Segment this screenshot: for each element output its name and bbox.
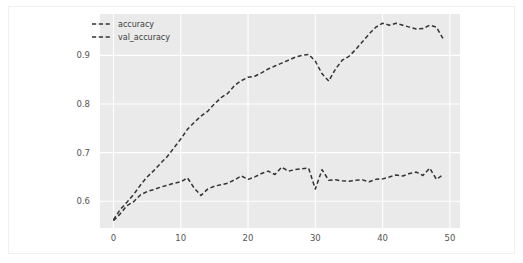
y-tick-label: 0.9 [76,50,90,60]
legend-label-val_accuracy: val_accuracy [118,33,170,42]
y-tick-label: 0.8 [76,99,90,109]
y-tick-label: 0.6 [76,196,90,206]
y-tick-label: 0.7 [76,148,90,158]
x-tick-label: 30 [310,233,321,243]
chart-figure: 0.60.70.80.901020304050accuracyval_accur… [0,0,523,263]
y-axis-tick-labels: 0.60.70.80.9 [76,50,90,206]
x-tick-label: 40 [377,233,388,243]
accuracy-line-chart: 0.60.70.80.901020304050accuracyval_accur… [0,0,523,263]
plot-area-background [100,14,460,228]
x-tick-label: 10 [175,233,186,243]
legend-label-accuracy: accuracy [118,20,154,29]
x-tick-label: 0 [111,233,116,243]
x-axis-tick-labels: 01020304050 [111,233,456,243]
x-tick-label: 50 [444,233,455,243]
x-tick-label: 20 [243,233,254,243]
